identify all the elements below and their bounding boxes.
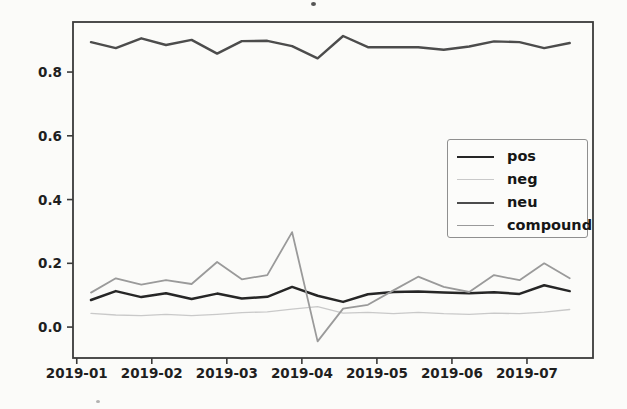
legend-entry-neu: neu bbox=[457, 192, 587, 214]
y-tick-label: 0.2 bbox=[38, 255, 62, 271]
series-line-neu bbox=[91, 36, 570, 58]
x-tick-label: 2019-06 bbox=[421, 365, 483, 381]
y-tick-label: 0.4 bbox=[38, 192, 62, 208]
scan-artifact bbox=[311, 2, 316, 6]
x-tick-label: 2019-03 bbox=[196, 365, 258, 381]
neu-line-swatch bbox=[457, 202, 494, 204]
scanned-chart-page: 2019-012019-022019-032019-042019-052019-… bbox=[0, 0, 627, 409]
series-line-pos bbox=[91, 285, 570, 302]
x-tick-label: 2019-05 bbox=[346, 365, 408, 381]
x-tick-label: 2019-02 bbox=[121, 365, 183, 381]
y-tick-label: 0.6 bbox=[38, 128, 62, 144]
x-tick-label: 2019-01 bbox=[46, 365, 108, 381]
legend-entry-neg: neg bbox=[457, 169, 587, 191]
legend-entry-compound: compound bbox=[457, 215, 587, 237]
y-tick-label: 0.0 bbox=[38, 319, 62, 335]
legend-label-neg: neg bbox=[507, 172, 538, 187]
x-tick-label: 2019-07 bbox=[496, 365, 558, 381]
neg-line-swatch bbox=[457, 179, 494, 180]
scan-artifact bbox=[96, 400, 100, 403]
compound-line-swatch bbox=[457, 225, 494, 226]
series-line-compound bbox=[91, 232, 570, 341]
chart-legend: pos neg neu compound bbox=[447, 139, 588, 238]
series-line-neg bbox=[91, 307, 570, 316]
legend-entry-pos: pos bbox=[457, 146, 587, 168]
legend-label-neu: neu bbox=[507, 195, 537, 210]
y-tick-label: 0.8 bbox=[38, 64, 62, 80]
x-tick-label: 2019-04 bbox=[271, 365, 333, 381]
legend-label-pos: pos bbox=[507, 149, 536, 164]
legend-label-compound: compound bbox=[507, 218, 592, 233]
pos-line-swatch bbox=[457, 156, 494, 158]
